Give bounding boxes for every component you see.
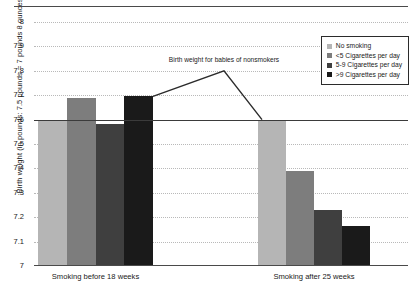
- legend-item-over-9-cigarettes[interactable]: >9 Cigarettes per day: [327, 71, 402, 79]
- group-label-before-18-weeks: Smoking before 18 weeks: [52, 272, 139, 281]
- annotation-label: Birth weight for babies of nonsmokers: [169, 56, 279, 63]
- bar[interactable]: [258, 120, 286, 266]
- legend-swatch-icon: [327, 63, 332, 68]
- y-axis-tick-label: 7.7: [0, 91, 24, 99]
- bar[interactable]: [314, 210, 342, 266]
- chart-legend: No smoking <5 Cigarettes per day 5-9 Cig…: [321, 36, 409, 85]
- y-axis-tick-label: 8: [0, 18, 24, 26]
- y-axis-tick-label: 7.1: [0, 238, 24, 246]
- gridline: [34, 95, 408, 96]
- legend-swatch-icon: [327, 44, 332, 49]
- reference-line: [34, 120, 408, 121]
- bar[interactable]: [67, 98, 96, 266]
- y-axis-tick-label: 7.9: [0, 42, 24, 50]
- legend-item-label: 5-9 Cigarettes per day: [336, 61, 402, 69]
- legend-item-under-5-cigarettes[interactable]: <5 Cigarettes per day: [327, 52, 402, 60]
- legend-item-5-to-9-cigarettes[interactable]: 5-9 Cigarettes per day: [327, 61, 402, 69]
- bar[interactable]: [124, 96, 153, 266]
- y-axis-tick-label: 7.5: [0, 140, 24, 148]
- legend-item-label: No smoking: [336, 42, 371, 50]
- gridline: [34, 22, 408, 23]
- y-axis-tick-label: 7.8: [0, 67, 24, 75]
- x-axis-baseline: [34, 265, 408, 266]
- bar[interactable]: [96, 124, 125, 266]
- y-axis-tick-label: 7.4: [0, 164, 24, 172]
- legend-swatch-icon: [327, 72, 332, 77]
- bar[interactable]: [38, 120, 67, 266]
- group-label-after-25-weeks: Smoking after 25 weeks: [273, 272, 354, 281]
- legend-item-label: <5 Cigarettes per day: [336, 52, 400, 60]
- top-divider-rule: [14, 6, 408, 7]
- y-axis-title: Birth weight (in pounds: 7.5 pounds = 7 …: [15, 0, 24, 210]
- bar[interactable]: [286, 171, 314, 266]
- legend-item-no-smoking[interactable]: No smoking: [327, 42, 402, 50]
- y-axis-tick-label: 7.3: [0, 189, 24, 197]
- legend-item-label: >9 Cigarettes per day: [336, 71, 400, 79]
- legend-swatch-icon: [327, 53, 332, 58]
- chart-container: Birth weight (in pounds: 7.5 pounds = 7 …: [0, 0, 415, 292]
- y-axis-tick-label: 7: [0, 262, 24, 270]
- y-axis-tick-label: 7.2: [0, 213, 24, 221]
- y-axis-tick-label: 7.6: [0, 116, 24, 124]
- bar[interactable]: [342, 226, 370, 266]
